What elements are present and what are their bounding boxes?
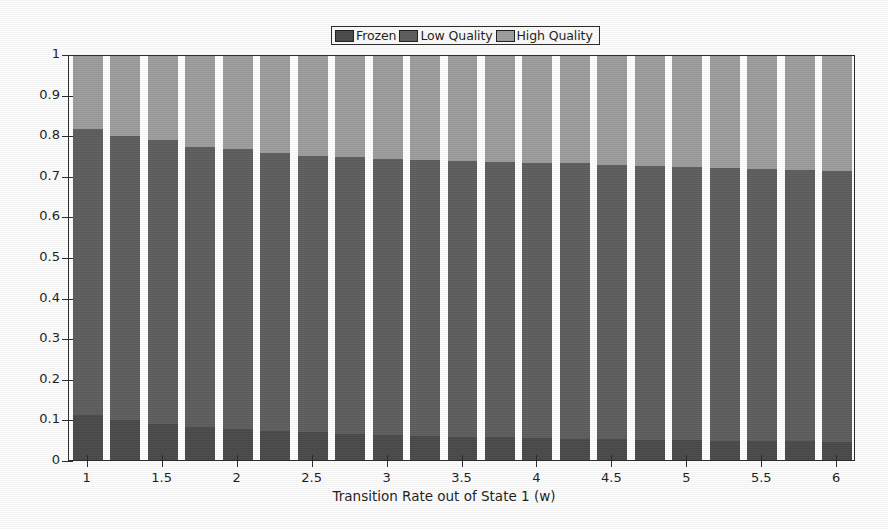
bar-stack (410, 56, 440, 460)
y-axis-tick-inner (68, 258, 73, 259)
bar-segment-low-quality (560, 163, 590, 438)
stacked-bar-chart-figure: Frozen Low Quality High Quality 00.10.20… (0, 0, 888, 529)
chart-legend: Frozen Low Quality High Quality (331, 26, 600, 45)
bar-segment-frozen (522, 438, 552, 460)
bar-segment-high-quality (148, 56, 178, 140)
y-axis-tick-label: 0.5 (39, 249, 60, 264)
bar-segment-frozen (260, 431, 290, 460)
bar-segment-high-quality (522, 56, 552, 163)
bar-segment-frozen (710, 441, 740, 460)
y-axis-tick-inner (68, 177, 73, 178)
bar-segment-low-quality (373, 159, 403, 435)
x-axis-tick-label: 5 (682, 470, 690, 485)
legend-label-low-quality: Low Quality (420, 30, 492, 42)
bar-segment-high-quality (710, 56, 740, 168)
bar-segment-high-quality (635, 56, 665, 166)
bar-segment-high-quality (73, 56, 103, 129)
legend-swatch-low-quality (399, 30, 418, 42)
bar-stack (185, 56, 215, 460)
bar-segment-high-quality (672, 56, 702, 167)
bar-stack (373, 56, 403, 460)
y-axis-tick-inner (68, 380, 73, 381)
y-axis-tick-inner (68, 339, 73, 340)
y-axis-tick-label: 1 (52, 46, 60, 61)
bar-segment-low-quality (822, 171, 852, 442)
bar-segment-high-quality (110, 56, 140, 136)
x-axis-tick-label: 2 (233, 470, 241, 485)
bar-stack (73, 56, 103, 460)
y-axis-tick-inner (68, 55, 73, 56)
x-axis-tick (836, 461, 837, 467)
y-axis-tick-inner (68, 136, 73, 137)
x-axis-tick-inner (686, 455, 687, 460)
x-axis-tick-label: 5.5 (751, 470, 772, 485)
x-axis-tick-label: 4.5 (601, 470, 622, 485)
bar-stack (522, 56, 552, 460)
bar-stack (110, 56, 140, 460)
bar-segment-high-quality (223, 56, 253, 149)
bar-segment-high-quality (335, 56, 365, 157)
x-axis-tick (312, 461, 313, 467)
bar-segment-low-quality (73, 129, 103, 415)
bar-stack (148, 56, 178, 460)
bar-segment-high-quality (560, 56, 590, 163)
bar-segment-low-quality (260, 153, 290, 431)
x-axis-tick (761, 461, 762, 467)
y-axis-tick-label: 0 (52, 452, 60, 467)
x-axis-tick (387, 461, 388, 467)
bar-segment-high-quality (373, 56, 403, 159)
bar-segment-frozen (597, 439, 627, 460)
bar-segment-high-quality (448, 56, 478, 161)
y-axis-tick-label: 0.3 (39, 330, 60, 345)
x-axis-tick-inner (162, 455, 163, 460)
y-axis-tick-label: 0.4 (39, 290, 60, 305)
bar-segment-low-quality (522, 163, 552, 438)
bar-segment-frozen (635, 440, 665, 460)
bar-segment-low-quality (185, 147, 215, 427)
plot-area (68, 55, 855, 461)
y-axis-tick-label: 0.1 (39, 411, 60, 426)
bar-segment-low-quality (785, 170, 815, 441)
bar-stack (298, 56, 328, 460)
x-axis-tick-inner (536, 455, 537, 460)
bar-segment-frozen (747, 441, 777, 460)
x-axis-tick-inner (462, 455, 463, 460)
legend-label-high-quality: High Quality (517, 30, 593, 42)
bar-segment-frozen (822, 442, 852, 460)
bar-segment-frozen (185, 427, 215, 460)
bar-segment-low-quality (448, 161, 478, 437)
bar-stack (822, 56, 852, 460)
bar-segment-frozen (110, 420, 140, 460)
bar-segment-high-quality (260, 56, 290, 153)
bar-segment-low-quality (298, 156, 328, 432)
bar-segment-low-quality (635, 166, 665, 440)
x-axis-tick-inner (611, 455, 612, 460)
bar-stack (335, 56, 365, 460)
bar-segment-high-quality (185, 56, 215, 147)
legend-item-high-quality: High Quality (496, 30, 593, 42)
bar-segment-low-quality (335, 157, 365, 433)
y-axis-tick-label: 0.6 (39, 208, 60, 223)
bar-segment-frozen (410, 436, 440, 460)
x-axis-tick (237, 461, 238, 467)
bar-stack (223, 56, 253, 460)
x-axis-tick-inner (387, 455, 388, 460)
x-axis-tick (686, 461, 687, 467)
bar-stack (672, 56, 702, 460)
bar-stack (710, 56, 740, 460)
bar-segment-low-quality (747, 169, 777, 441)
legend-swatch-high-quality (496, 30, 515, 42)
x-axis-title: Transition Rate out of State 1 (w) (0, 488, 888, 504)
y-axis-tick-inner (68, 96, 73, 97)
legend-item-low-quality: Low Quality (399, 30, 492, 42)
bar-segment-frozen (672, 440, 702, 460)
y-axis-tick-inner (68, 299, 73, 300)
bar-segment-low-quality (672, 167, 702, 440)
y-axis-tick-label: 0.7 (39, 168, 60, 183)
legend-swatch-frozen (335, 30, 354, 42)
x-axis-tick-inner (312, 455, 313, 460)
y-axis-tick-label: 0.9 (39, 87, 60, 102)
x-axis-tick (87, 461, 88, 467)
bar-segment-high-quality (822, 56, 852, 171)
x-axis-tick (536, 461, 537, 467)
